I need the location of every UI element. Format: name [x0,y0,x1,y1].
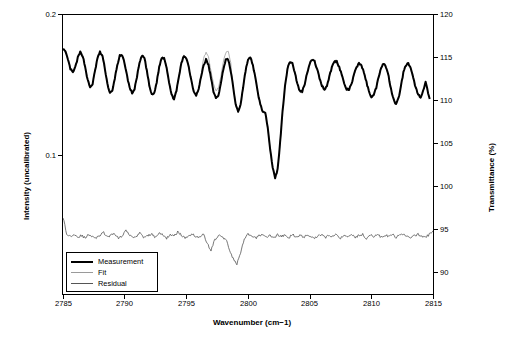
yticklabel-right-6: 120 [440,10,453,19]
legend-label-measurement: Measurement [98,256,143,267]
yticklabel-left-mid: 0.1 [30,151,56,160]
series-measurement [63,49,430,178]
yticklabel-right-0: 90 [440,268,448,277]
legend-item-measurement: Measurement [71,256,153,267]
xticklabel-6: 2815 [418,299,449,308]
legend-label-fit: Fit [98,267,106,278]
yticklabel-right-4: 110 [440,96,452,105]
y-axis-title-right: Transmittance (%) [487,143,496,212]
ytick-right-95 [434,229,438,230]
legend-label-residual: Residual [98,278,127,289]
legend-swatch-residual [71,283,93,284]
yticklabel-left-top: 0.2 [30,10,56,19]
legend-item-residual: Residual [71,278,153,289]
legend-swatch-fit [71,272,93,273]
yticklabel-right-3: 105 [440,139,453,148]
legend-item-fit: Fit [71,267,153,278]
xticklabel-0: 2785 [48,299,79,308]
xticklabel-4: 2805 [294,299,325,308]
ytick-right-105 [434,143,438,144]
xticklabel-2: 2795 [171,299,202,308]
xticklabel-5: 2810 [356,299,387,308]
y-axis-title-left: Intensity (uncalibrated) [22,132,31,220]
yticklabel-right-2: 100 [440,182,453,191]
xticklabel-1: 2790 [109,299,140,308]
ytick-right-110 [434,100,438,101]
ytick-right-90 [434,272,438,273]
ytick-right-100 [434,186,438,187]
xticklabel-3: 2800 [233,299,264,308]
yticklabel-right-5: 115 [440,53,452,62]
yticklabel-right-1: 95 [440,225,448,234]
legend-swatch-measurement [71,261,93,263]
chart-root: 2785 2790 2795 2800 2805 2810 2815 0.2 0… [0,0,509,359]
ytick-right-120 [434,14,438,15]
x-axis-title: Wavenumber (cm−1) [213,318,291,327]
chart-legend: Measurement Fit Residual [66,252,158,292]
ytick-left-0 [58,14,62,15]
ytick-right-115 [434,57,438,58]
ytick-left-1 [58,155,62,156]
